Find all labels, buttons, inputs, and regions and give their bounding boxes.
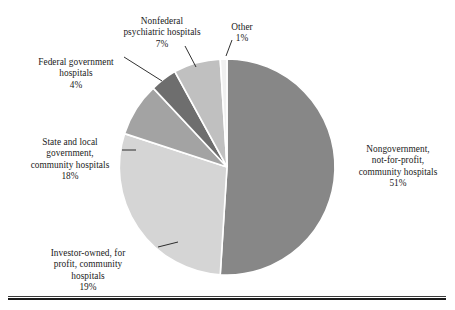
- pie-chart-figure: Nongovernment, not-for-profit, community…: [0, 0, 455, 310]
- pie-label-nonfederal-psychiatric-percent: 7%: [98, 39, 226, 50]
- pie-label-nongovernment-percent: 51%: [341, 178, 455, 189]
- pie-label-state-and-local-percent: 18%: [6, 171, 134, 182]
- pie-label-nonfederal-psychiatric-text: Nonfederal psychiatric hospitals: [123, 16, 200, 37]
- pie-label-federal-government-percent: 4%: [14, 80, 138, 91]
- figure-bottom-rule-thick: [8, 298, 446, 300]
- pie-label-nonfederal-psychiatric: Nonfederal psychiatric hospitals 7%: [98, 5, 226, 61]
- pie-label-other-text: Other: [231, 22, 252, 32]
- pie-label-nongovernment-text: Nongovernment, not-for-profit, community…: [359, 144, 438, 176]
- pie-label-investor-owned-text: Investor-owned, for profit, community ho…: [51, 248, 126, 280]
- pie-label-investor-owned-percent: 19%: [22, 282, 154, 293]
- pie-label-state-and-local: State and local government, community ho…: [6, 126, 134, 193]
- figure-bottom-rule: [8, 296, 446, 300]
- pie-label-other: Other 1%: [212, 11, 272, 56]
- pie-slice-nongovernment[interactable]: [220, 59, 335, 275]
- pie-label-state-and-local-text: State and local government, community ho…: [31, 137, 110, 169]
- pie-label-nongovernment: Nongovernment, not-for-profit, community…: [341, 133, 455, 200]
- pie-label-investor-owned: Investor-owned, for profit, community ho…: [22, 237, 154, 304]
- pie-label-other-percent: 1%: [212, 33, 272, 44]
